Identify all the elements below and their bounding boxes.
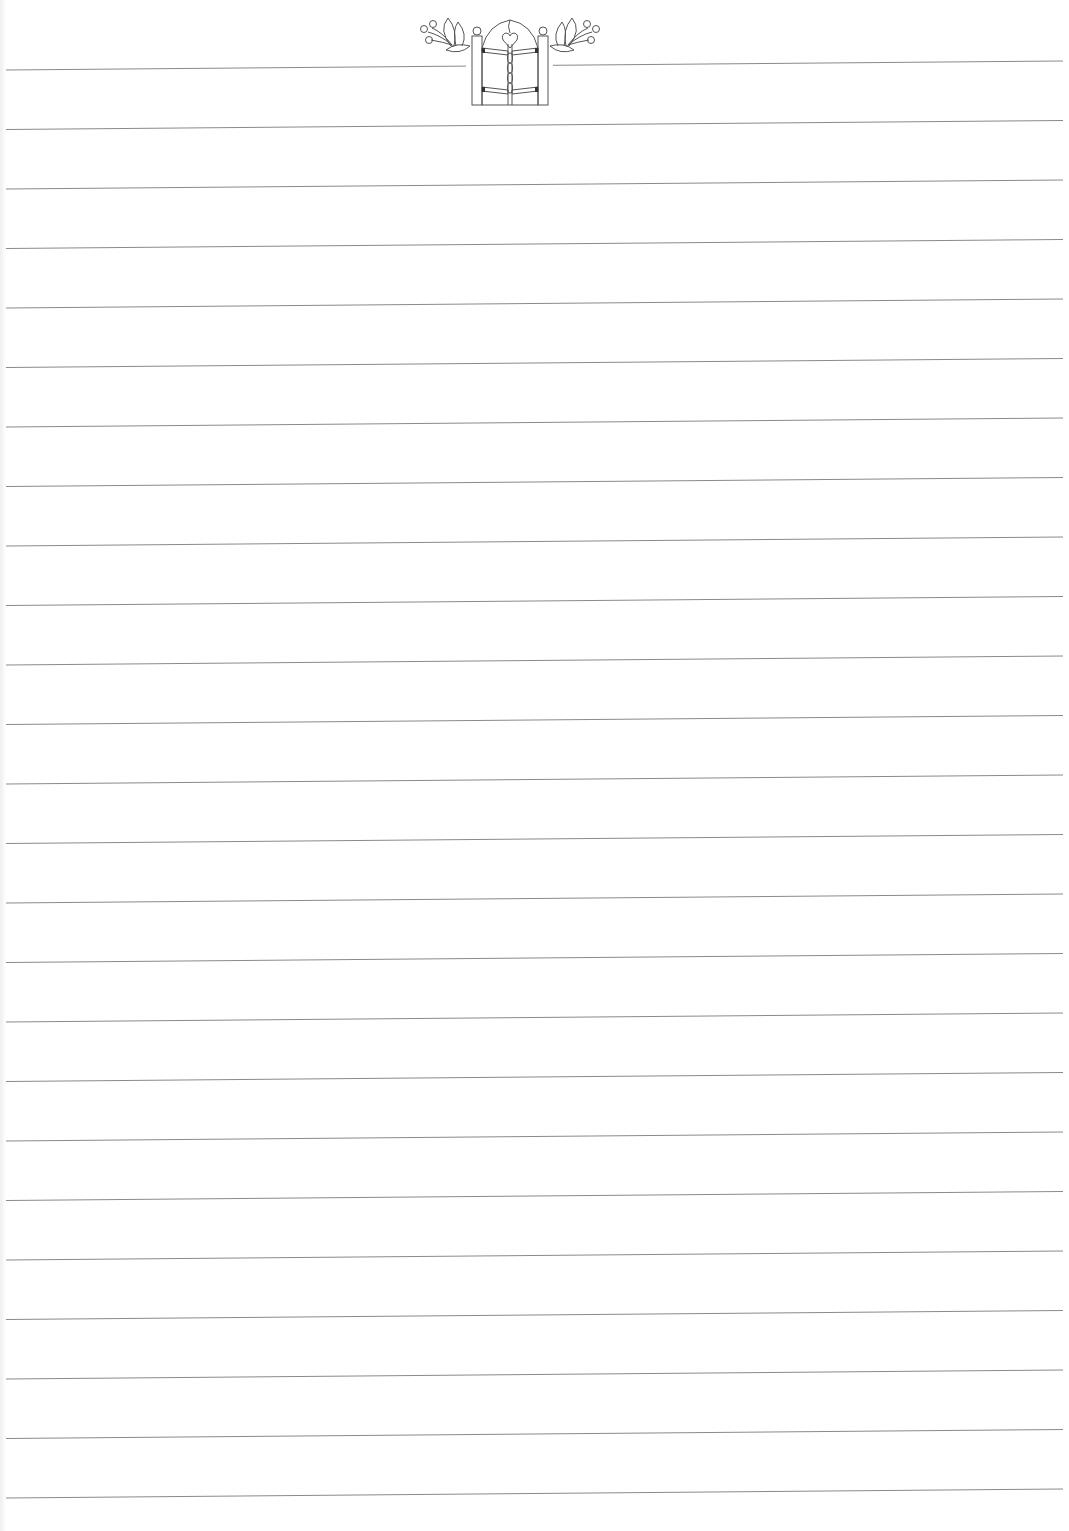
ruled-line bbox=[553, 61, 1063, 65]
ruled-line bbox=[6, 478, 1063, 487]
ruled-line bbox=[6, 66, 466, 70]
ruled-line bbox=[6, 1370, 1063, 1379]
ruled-line bbox=[6, 1311, 1063, 1320]
ruled-line bbox=[6, 1489, 1063, 1498]
ruled-line bbox=[6, 1073, 1063, 1082]
ruled-line bbox=[6, 597, 1063, 606]
left-flower-icon bbox=[421, 18, 471, 52]
heart-icon bbox=[502, 33, 517, 48]
lined-paper-page bbox=[0, 0, 1069, 1531]
ruled-line bbox=[6, 537, 1063, 546]
ruled-line bbox=[6, 180, 1063, 189]
left-gate-post-icon bbox=[472, 27, 482, 105]
ruled-line bbox=[6, 1251, 1063, 1260]
ruled-line bbox=[6, 716, 1063, 725]
ruled-line bbox=[6, 894, 1063, 903]
ruled-line bbox=[6, 1013, 1063, 1022]
ruled-line bbox=[6, 1430, 1063, 1439]
ruled-line bbox=[6, 1192, 1063, 1201]
right-gate-post-icon bbox=[538, 27, 548, 105]
ruled-line bbox=[6, 240, 1063, 249]
ruled-line bbox=[6, 418, 1063, 427]
ruled-line bbox=[6, 1132, 1063, 1141]
ruled-line bbox=[6, 121, 1063, 130]
ruled-line bbox=[6, 954, 1063, 963]
ruled-lines bbox=[0, 0, 1069, 1531]
ruled-line bbox=[6, 656, 1063, 665]
gate-doors-icon bbox=[482, 20, 538, 105]
right-flower-icon bbox=[550, 18, 600, 52]
ruled-line bbox=[6, 299, 1063, 308]
ruled-line bbox=[6, 775, 1063, 784]
ruled-line bbox=[6, 835, 1063, 844]
garden-gate-ornament bbox=[410, 8, 610, 112]
ruled-line bbox=[6, 359, 1063, 368]
